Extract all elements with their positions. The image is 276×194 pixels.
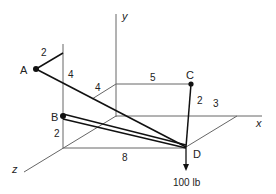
dim-top-length: 5 [150,72,156,83]
z-axis-label: z [11,163,18,175]
dim-top-depth: 4 [95,82,101,93]
point-b-label: B [51,111,58,123]
point-a-label: A [20,64,28,76]
dim-b-height: 2 [54,128,60,139]
y-axis-label: y [121,10,129,22]
load-label: 100 lb [173,177,201,188]
dim-x-offset: 3 [213,98,219,109]
member-bd-upper [63,114,186,145]
members [36,53,191,166]
member-bd-lower [63,119,186,148]
point-c-dot [188,81,193,86]
dim-c-drop: 2 [197,95,203,106]
point-a-dot [33,66,39,72]
point-b-dot [60,113,66,119]
dim-a-height: 4 [68,69,74,80]
dim-bottom-length: 8 [122,152,128,163]
point-c-label: C [186,69,194,81]
load-arrow-head [183,164,189,171]
dim-a-offset: 2 [41,47,47,58]
d-to-x-line [186,116,237,147]
x-axis-label: x [255,117,262,129]
statics-diagram: y x z A B C D 2 4 4 5 2 3 2 8 100 lb [0,0,276,194]
point-d-label: D [193,148,201,160]
frame-lines [24,14,262,172]
